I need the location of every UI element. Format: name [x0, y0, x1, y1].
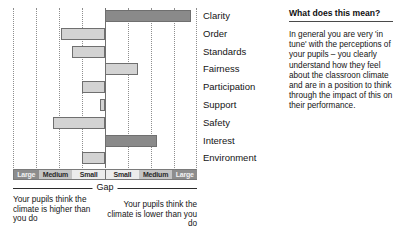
caption-left: Your pupils think the climate is higher …	[13, 195, 97, 224]
band-segment-0: Large	[14, 170, 39, 179]
gap-axis: Gap	[13, 182, 197, 194]
bar-row	[13, 115, 196, 133]
bar-row	[13, 8, 196, 26]
panel-title: What does this mean?	[289, 8, 393, 18]
panel-body-text: In general you are very 'in tune' with t…	[289, 30, 393, 112]
category-label-environment: Environment	[203, 152, 256, 163]
plot-area	[13, 8, 196, 168]
category-label-clarity: Clarity	[203, 10, 230, 21]
bar-row	[13, 79, 196, 97]
caption-right: Your pupils think the climate is lower t…	[105, 200, 197, 229]
explanation-panel: What does this mean? In general you are …	[289, 8, 393, 112]
category-label-order: Order	[203, 28, 227, 39]
report-page: ClarityOrderStandardsFairnessParticipati…	[0, 0, 398, 237]
bar-safety	[53, 117, 105, 129]
gap-magnitude-band: LargeMediumSmallSmallMediumLarge	[13, 169, 197, 180]
category-labels: ClarityOrderStandardsFairnessParticipati…	[203, 8, 285, 168]
band-segment-3: Small	[105, 170, 139, 179]
category-label-standards: Standards	[203, 46, 246, 57]
gridline	[196, 8, 198, 168]
bar-row	[13, 133, 196, 151]
bar-row	[13, 150, 196, 168]
bar-standards	[72, 46, 105, 58]
bar-support	[100, 99, 105, 111]
bar-interest	[105, 135, 157, 147]
bar-environment	[82, 152, 105, 164]
gap-chart: ClarityOrderStandardsFairnessParticipati…	[0, 0, 285, 237]
bar-row	[13, 26, 196, 44]
band-segment-1: Medium	[39, 170, 73, 179]
bar-row	[13, 97, 196, 115]
bar-fairness	[105, 63, 138, 75]
bar-rows	[13, 8, 196, 168]
band-segment-2: Small	[72, 170, 105, 179]
bar-participation	[82, 81, 105, 93]
bar-row	[13, 61, 196, 79]
category-label-participation: Participation	[203, 81, 255, 92]
bar-row	[13, 44, 196, 62]
bar-order	[61, 28, 105, 40]
band-segment-4: Medium	[139, 170, 173, 179]
band-segment-5: Large	[172, 170, 197, 179]
category-label-safety: Safety	[203, 117, 230, 128]
category-label-support: Support	[203, 99, 236, 110]
gap-axis-label: Gap	[92, 182, 117, 193]
category-label-fairness: Fairness	[203, 63, 239, 74]
category-label-interest: Interest	[203, 135, 235, 146]
bar-clarity	[105, 10, 191, 22]
panel-title-underline	[289, 21, 393, 22]
